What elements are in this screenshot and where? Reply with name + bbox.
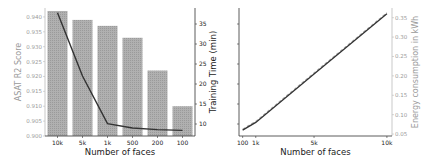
- right-chart-time-energy: 0.050.100.150.200.250.300.351001k5k10kNu…: [237, 8, 420, 157]
- energy-line: [243, 13, 387, 129]
- y2-tick-label: 0.35: [395, 15, 408, 21]
- x-tick-label: 1k: [104, 139, 112, 146]
- x-tick-label: 200: [152, 139, 164, 146]
- x-tick-label: 100: [237, 139, 249, 146]
- x-tick-label: 10k: [52, 139, 64, 146]
- y2-tick-label: 10: [199, 120, 207, 127]
- chart-figure: 0.9000.9050.9100.9150.9200.9250.9300.935…: [0, 0, 435, 163]
- y2-tick-label: 0.30: [395, 34, 408, 40]
- y2-tick-label: 25: [199, 60, 207, 67]
- y2-axis-label: Energy consumption in kWh: [411, 16, 420, 128]
- y-tick-label: 0.925: [26, 59, 42, 65]
- y2-tick-label: 20: [199, 80, 207, 87]
- x-tick-label: 5k: [79, 139, 87, 146]
- left-chart-score-vs-faces: 0.9000.9050.9100.9150.9200.9250.9300.935…: [14, 8, 218, 157]
- y2-tick-label: 35: [199, 20, 207, 27]
- y-tick-label: 0.930: [26, 44, 42, 50]
- x-axis-label: Number of faces: [85, 147, 156, 157]
- y2-tick-label: 0.20: [395, 73, 408, 79]
- y-tick-label: 0.935: [26, 29, 42, 35]
- y-tick-label: 0.905: [26, 118, 42, 124]
- y2-tick-label: 0.05: [395, 131, 408, 137]
- x-tick-label: 1k: [252, 139, 260, 146]
- y-tick-label: 0.915: [26, 88, 42, 94]
- score-bar-1k: [98, 26, 118, 136]
- y-axis-label: ASAT R2 Score: [14, 43, 23, 102]
- x-axis-label: Number of faces: [280, 147, 351, 157]
- y-tick-label: 0.940: [26, 14, 42, 20]
- score-bar-5k: [73, 20, 93, 136]
- score-bar-500: [123, 38, 143, 136]
- y2-tick-label: 30: [199, 40, 207, 47]
- y-tick-label: 0.900: [26, 133, 42, 139]
- score-bar-100: [173, 106, 193, 136]
- x-tick-label: 500: [127, 139, 139, 146]
- y2-tick-label: 15: [199, 100, 207, 107]
- y-tick-label: 0.920: [26, 73, 42, 79]
- y-tick-label: 0.910: [26, 103, 42, 109]
- score-bar-200: [148, 71, 168, 136]
- y2-tick-label: 0.15: [395, 92, 408, 98]
- x-tick-label: 10k: [381, 139, 393, 146]
- y2-axis-label: Training Time (min): [208, 31, 218, 114]
- x-tick-label: 5k: [310, 139, 318, 146]
- y2-tick-label: 0.25: [395, 53, 408, 59]
- x-tick-label: 100: [177, 139, 189, 146]
- y2-tick-label: 0.10: [395, 112, 408, 118]
